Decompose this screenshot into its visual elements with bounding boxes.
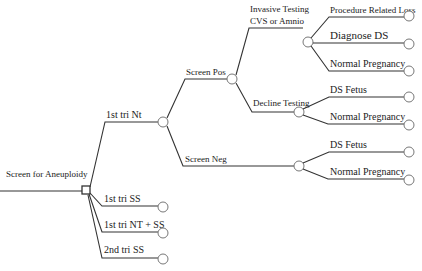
terminal-node-ds-fetus-1[interactable] bbox=[404, 92, 414, 102]
label-screen-neg: Screen Neg bbox=[185, 154, 227, 164]
label-diagnose-ds: Diagnose DS bbox=[330, 29, 388, 41]
label-normal-pregnancy-3: Normal Pregnancy bbox=[330, 166, 405, 177]
edge-invasive-testing bbox=[236, 28, 303, 75]
terminal-node-ds-fetus-2[interactable] bbox=[404, 147, 414, 157]
edge-screen-pos bbox=[167, 79, 227, 118]
label-screen-pos: Screen Pos bbox=[186, 67, 226, 77]
terminal-node-diagnose-ds[interactable] bbox=[404, 39, 414, 49]
chance-node-screen-pos[interactable] bbox=[227, 74, 237, 84]
edge-1st-tri-nt bbox=[90, 122, 158, 187]
label-invasive-testing-line2: CVS or Amnio bbox=[250, 16, 305, 26]
terminal-node-normal-pregnancy-2[interactable] bbox=[404, 120, 414, 130]
label-normal-pregnancy-2: Normal Pregnancy bbox=[330, 111, 405, 122]
chance-node-2nd-tri-ss[interactable] bbox=[158, 254, 168, 264]
terminal-node-normal-pregnancy-1[interactable] bbox=[404, 66, 414, 76]
edge-ds-fetus-2 bbox=[303, 152, 404, 163]
chance-node-1st-tri-nt-ss[interactable] bbox=[158, 228, 168, 238]
label-ds-fetus-2: DS Fetus bbox=[330, 139, 367, 150]
label-1st-tri-ss: 1st tri SS bbox=[104, 193, 141, 204]
chance-node-1st-tri-nt[interactable] bbox=[158, 117, 168, 127]
chance-node-1st-tri-ss[interactable] bbox=[158, 202, 168, 212]
label-procedure-related-loss: Procedure Related Loss bbox=[330, 5, 416, 15]
chance-node-screen-neg[interactable] bbox=[294, 161, 304, 171]
label-normal-pregnancy-1: Normal Pregnancy bbox=[330, 58, 405, 69]
chance-node-invasive-testing[interactable] bbox=[303, 37, 313, 47]
chance-node-decline-testing[interactable] bbox=[294, 107, 304, 117]
label-invasive-testing-line1: Invasive Testing bbox=[250, 4, 309, 14]
label-1st-tri-nt: 1st tri Nt bbox=[106, 109, 142, 120]
label-1st-tri-nt-ss: 1st tri NT + SS bbox=[104, 219, 164, 230]
label-ds-fetus-1: DS Fetus bbox=[330, 84, 367, 95]
label-2nd-tri-ss: 2nd tri SS bbox=[104, 244, 144, 255]
terminal-node-procedure-related-loss[interactable] bbox=[404, 11, 414, 21]
decision-node-root[interactable] bbox=[82, 186, 90, 194]
edge-ds-fetus-1 bbox=[303, 97, 404, 109]
decision-tree: Screen for Aneuploidy 1st tri Nt Screen … bbox=[0, 0, 422, 271]
label-decline-testing: Decline Testing bbox=[253, 98, 310, 108]
root-label: Screen for Aneuploidy bbox=[6, 169, 88, 179]
terminal-node-normal-pregnancy-3[interactable] bbox=[404, 175, 414, 185]
